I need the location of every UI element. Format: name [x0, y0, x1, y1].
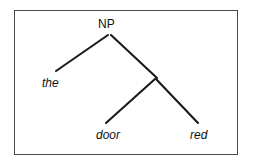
- tree-leaf-red-label: red: [190, 129, 207, 141]
- syntax-tree-figure: NP the door red: [0, 0, 253, 168]
- tree-leaf-door-label: door: [96, 129, 120, 141]
- tree-node-np-label: NP: [98, 18, 115, 30]
- tree-leaf-the-label: the: [42, 77, 59, 89]
